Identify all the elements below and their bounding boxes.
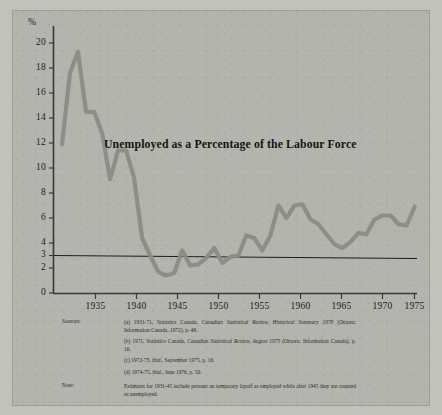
source-d-text-after: , June 1976, p. 50. [162, 369, 202, 375]
note-text: Estimates for 1931-45 include persons on… [124, 382, 442, 398]
y-tick-label-4: 4 [24, 237, 46, 247]
source-item-c: (c) 1972-73, ibid., September 1975, p. 1… [124, 356, 356, 364]
y-tick-label-3: 3 [24, 249, 46, 259]
note-block: Note: Estimates for 1931-45 include pers… [0, 382, 442, 398]
source-d-text-before: 1974-75, [130, 369, 152, 375]
x-tick-label-1935: 1935 [79, 301, 113, 311]
unemployment-rate-line [62, 52, 415, 276]
y-tick-label-20: 20 [24, 37, 46, 47]
note-label: Note: [0, 382, 124, 398]
x-tick-label-1965: 1965 [325, 301, 359, 311]
sources-block: Sources: (a) 1931-71, Statistics Canada,… [0, 318, 442, 376]
y-tick-label-12: 12 [24, 137, 46, 147]
source-c-italic: ibid. [152, 357, 162, 363]
x-tick-label-1960: 1960 [284, 301, 318, 311]
y-tick-label-0: 0 [24, 287, 46, 297]
y-tick-label-2: 2 [24, 262, 46, 272]
x-tick-label-1975: 1975 [398, 301, 432, 311]
y-tick-label-14: 14 [24, 112, 46, 122]
source-item-d: (d) 1974-75, ibid., June 1976, p. 50. [124, 368, 356, 376]
source-a-italic: Canadian Statistical Review, Historical … [202, 319, 334, 325]
x-tick-label-1950: 1950 [202, 301, 236, 311]
x-tick-marks [96, 294, 415, 300]
y-tick-label-10: 10 [24, 162, 46, 172]
source-c-text-before: 1972-73, [130, 357, 152, 363]
y-tick-label-18: 18 [24, 62, 46, 72]
source-d-italic: ibid. [152, 369, 162, 375]
source-c-text-after: , September 1975, p. 16. [162, 357, 215, 363]
y-tick-label-8: 8 [24, 187, 46, 197]
sources-label: Sources: [0, 318, 124, 376]
source-b-italic: Canadian Statistical Review, August 1975 [187, 338, 280, 344]
y-tick-label-6: 6 [24, 212, 46, 222]
x-tick-label-1955: 1955 [243, 301, 277, 311]
chart-area: % 20 18 16 14 12 10 8 6 4 3 2 0 1935 194… [0, 0, 442, 415]
figure-page: % 20 18 16 14 12 10 8 6 4 3 2 0 1935 194… [0, 0, 442, 415]
x-tick-label-1970: 1970 [366, 301, 400, 311]
figure-footnotes: Sources: (a) 1931-71, Statistics Canada,… [0, 318, 442, 401]
sources-list: (a) 1931-71, Statistics Canada, Canadian… [124, 318, 442, 376]
y-tick-label-16: 16 [24, 87, 46, 97]
source-a-text-before: 1931-71, Statistics Canada, [130, 319, 202, 325]
x-tick-label-1945: 1945 [161, 301, 195, 311]
source-item-a: (a) 1931-71, Statistics Canada, Canadian… [124, 318, 356, 334]
x-tick-label-1940: 1940 [120, 301, 154, 311]
source-b-text-before: 1971, Statistics Canada, [130, 338, 187, 344]
y-axis-unit-label: % [28, 17, 36, 27]
source-item-b: (b) 1971, Statistics Canada, Canadian St… [124, 337, 356, 353]
chart-title: Unemployed as a Percentage of the Labour… [104, 137, 357, 152]
